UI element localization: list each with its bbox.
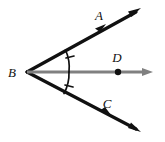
ray-bd-bisector xyxy=(27,68,153,76)
arc-dbc-curve xyxy=(64,72,69,94)
ray-bc xyxy=(27,72,141,132)
arc-abd xyxy=(66,50,75,72)
arc-abd-curve xyxy=(66,50,70,72)
point-d-dot xyxy=(115,69,121,75)
geometry-canvas: B A C D xyxy=(0,0,165,142)
label-point-c: C xyxy=(103,96,112,111)
ray-bd-arrowhead xyxy=(142,68,153,76)
label-point-b: B xyxy=(8,65,16,80)
geometry-diagram: B A C D xyxy=(0,0,165,142)
ray-ba xyxy=(27,8,141,72)
label-point-d: D xyxy=(111,50,122,65)
label-point-a: A xyxy=(94,8,103,23)
ray-bc-arrowhead xyxy=(128,123,141,133)
arc-dbc xyxy=(64,72,73,94)
ray-bc-line xyxy=(27,72,136,129)
